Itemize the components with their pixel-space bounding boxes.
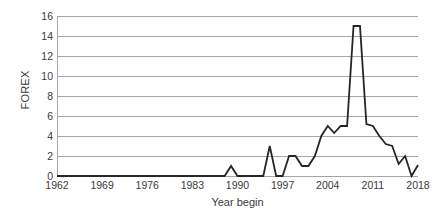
y-tick-label-16: 16 bbox=[26, 11, 53, 22]
y-tick-label-14: 14 bbox=[26, 31, 53, 42]
x-tick-label-1983: 1983 bbox=[169, 179, 215, 192]
x-tick-label-2011: 2011 bbox=[350, 179, 396, 192]
x-tick-label-1976: 1976 bbox=[124, 179, 170, 192]
y-tick-label-2: 2 bbox=[26, 151, 53, 162]
x-tick-label-1997: 1997 bbox=[260, 179, 306, 192]
y-tick-label-6: 6 bbox=[26, 111, 53, 122]
x-tick-label-2018: 2018 bbox=[395, 179, 441, 192]
x-axis-title: Year begin bbox=[57, 196, 418, 208]
x-tick-label-1969: 1969 bbox=[79, 179, 125, 192]
x-tick-label-1962: 1962 bbox=[34, 179, 80, 192]
series-forex bbox=[57, 16, 418, 176]
series-forex-line bbox=[57, 26, 418, 176]
y-tick-label-8: 8 bbox=[26, 91, 53, 102]
x-tick-label-1990: 1990 bbox=[215, 179, 261, 192]
forex-line-chart: FOREX 0246810121416 19621969197619831990… bbox=[0, 0, 442, 218]
y-tick-label-12: 12 bbox=[26, 51, 53, 62]
x-tick-label-2004: 2004 bbox=[305, 179, 351, 192]
x-axis-tick-labels: 196219691976198319901997200420112018 bbox=[0, 179, 442, 195]
y-tick-label-10: 10 bbox=[26, 71, 53, 82]
plot-area bbox=[57, 16, 418, 176]
y-tick-label-4: 4 bbox=[26, 131, 53, 142]
